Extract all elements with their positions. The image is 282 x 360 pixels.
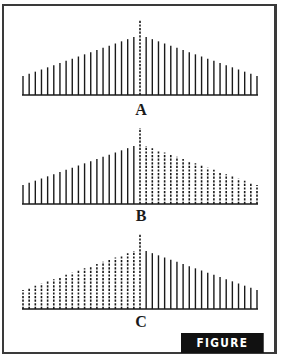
panel-a-label: A (0, 101, 282, 119)
panel-a-diagram (0, 0, 282, 360)
figure-caption-tag: FIGURE 8.10 (181, 333, 264, 353)
panel-b-label: B (0, 207, 282, 225)
panel-c-label: C (0, 313, 282, 331)
